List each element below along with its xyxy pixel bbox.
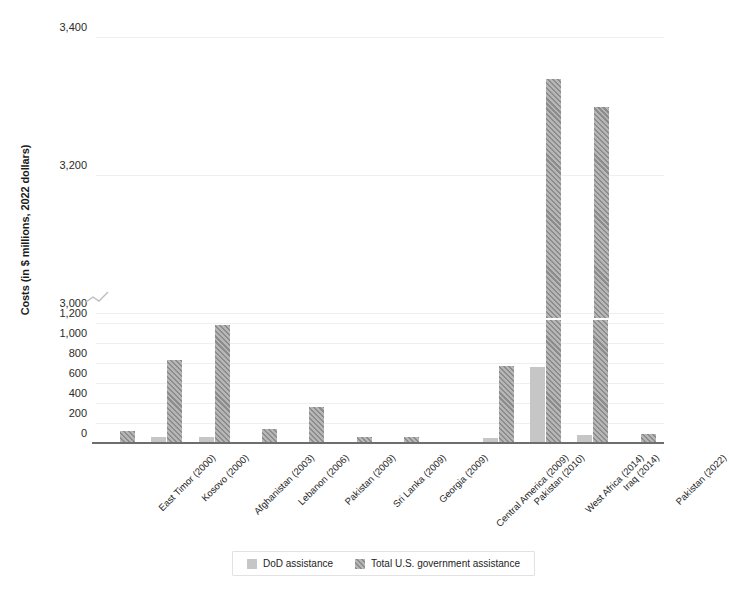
y-axis-tick-label: 3,000 — [59, 297, 87, 309]
legend-swatch-total-icon — [355, 559, 365, 569]
bar-group[interactable] — [238, 24, 285, 444]
bar-group[interactable] — [617, 24, 664, 444]
bar-group[interactable] — [333, 24, 380, 444]
y-axis-tick-label: 3,400 — [59, 21, 87, 33]
bar-dod[interactable] — [530, 367, 545, 444]
bar-group[interactable] — [569, 24, 616, 444]
x-axis-tick-label: East Timor (2000) — [156, 452, 217, 513]
legend-label-total: Total U.S. government assistance — [371, 558, 520, 569]
y-axis-tick-label: 1,000 — [59, 327, 87, 339]
y-axis-title-text: Costs (in $ millions, 2022 dollars) — [19, 145, 31, 316]
bar-group[interactable] — [96, 24, 143, 444]
y-axis-tick-label: 600 — [69, 367, 87, 379]
chart-legend: DoD assistance Total U.S. government ass… — [232, 551, 535, 576]
legend-swatch-dod-icon — [247, 559, 257, 569]
bar-group[interactable] — [143, 24, 190, 444]
bar-total[interactable] — [215, 325, 230, 444]
y-axis-tick-label: 3,200 — [59, 159, 87, 171]
x-axis-labels: East Timor (2000)Kosovo (2000)Afghanista… — [96, 452, 664, 552]
bar-group[interactable] — [522, 24, 569, 444]
y-axis-tick-label: 200 — [69, 407, 87, 419]
bar-group[interactable] — [191, 24, 238, 444]
bar-group[interactable] — [475, 24, 522, 444]
y-axis-title: Costs (in $ millions, 2022 dollars) — [14, 0, 36, 460]
bar-total[interactable] — [546, 320, 561, 444]
bar-group[interactable] — [427, 24, 474, 444]
bar-group[interactable] — [285, 24, 332, 444]
x-axis-tick-label: Pakistan (2022) — [674, 452, 729, 507]
y-axis-tick-label: 0 — [81, 427, 87, 439]
bar-total[interactable] — [499, 366, 514, 445]
y-axis-tick-label: 400 — [69, 387, 87, 399]
axis-break-icon — [84, 286, 110, 308]
x-axis-tick-label: Central America (2009) — [494, 452, 571, 529]
bar-series-layer — [96, 24, 664, 444]
bar-total[interactable] — [309, 407, 324, 445]
bar-total[interactable] — [167, 360, 182, 444]
legend-label-dod: DoD assistance — [263, 558, 333, 569]
bar-total[interactable] — [593, 320, 608, 444]
x-axis-line — [92, 442, 664, 444]
x-axis-tick-label: Pakistan (2009) — [342, 452, 397, 507]
x-axis-tick-label: Afghanistan (2003) — [252, 452, 317, 517]
legend-item-dod[interactable]: DoD assistance — [247, 558, 333, 569]
plot-area: 02004006008001,0001,2003,0003,2003,400 — [96, 24, 664, 444]
y-axis-tick-label: 800 — [69, 347, 87, 359]
bar-group[interactable] — [380, 24, 427, 444]
legend-item-total[interactable]: Total U.S. government assistance — [355, 558, 520, 569]
